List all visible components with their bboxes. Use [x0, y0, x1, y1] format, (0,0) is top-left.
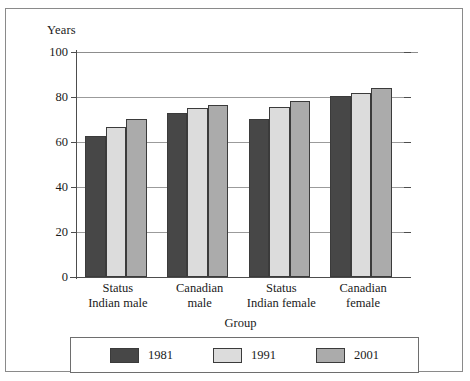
- bar-1981-canadian-female: [330, 96, 351, 277]
- y-tick-label-80: 80: [38, 91, 68, 104]
- bar-1991-status-indian-male: [106, 127, 127, 277]
- legend-swatch-2001: [316, 348, 345, 363]
- bar-1981-status-indian-female: [249, 119, 270, 277]
- y-tick-label-60: 60: [38, 136, 68, 149]
- y-tick-right-80: [404, 97, 411, 98]
- figure-frame: Years 020406080100 StatusIndian maleCana…: [5, 8, 463, 372]
- bar-2001-canadian-male: [208, 105, 229, 277]
- legend-item-1981[interactable]: 1981: [110, 348, 173, 363]
- legend-item-1991[interactable]: 1991: [213, 348, 276, 363]
- category-label-line: female: [302, 296, 424, 311]
- legend-swatch-1981: [110, 348, 139, 363]
- bar-1991-canadian-male: [187, 108, 208, 277]
- y-tick-right-20: [404, 232, 411, 233]
- legend-label-1991: 1991: [251, 348, 276, 363]
- bar-1981-canadian-male: [167, 113, 188, 277]
- category-label-line: Canadian: [302, 281, 424, 296]
- bar-1991-status-indian-female: [269, 107, 290, 277]
- y-tick-label-20: 20: [38, 226, 68, 239]
- bar-1991-canadian-female: [351, 93, 372, 278]
- legend-items: 198119912001: [71, 338, 418, 372]
- category-label-3: Canadianfemale: [302, 281, 424, 311]
- y-tick-label-100: 100: [38, 46, 68, 59]
- bar-2001-status-indian-male: [126, 119, 147, 277]
- bar-2001-canadian-female: [371, 88, 392, 277]
- y-tick-0: [71, 277, 77, 278]
- x-axis-category-labels: StatusIndian maleCanadianmaleStatusIndia…: [77, 281, 404, 321]
- x-axis-line: [70, 277, 411, 278]
- y-tick-right-100: [404, 52, 411, 53]
- y-tick-right-0: [404, 277, 411, 278]
- legend-label-1981: 1981: [148, 348, 173, 363]
- legend-swatch-1991: [213, 348, 242, 363]
- legend-label-2001: 2001: [354, 348, 379, 363]
- bar-1981-status-indian-male: [85, 136, 106, 277]
- y-tick-label-40: 40: [38, 181, 68, 194]
- y-axis-tick-labels: 020406080100: [38, 9, 68, 381]
- x-axis-title: Group: [77, 316, 404, 331]
- plot-area: [77, 52, 404, 277]
- y-tick-right-60: [404, 142, 411, 143]
- y-tick-right-40: [404, 187, 411, 188]
- legend: 198119912001: [70, 337, 419, 373]
- legend-item-2001[interactable]: 2001: [316, 348, 379, 363]
- bar-2001-status-indian-female: [290, 101, 311, 277]
